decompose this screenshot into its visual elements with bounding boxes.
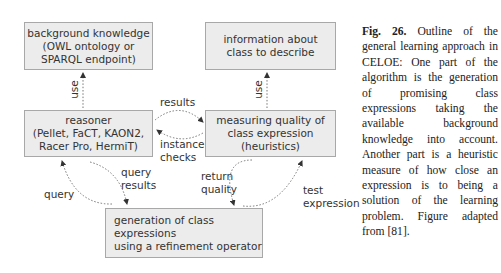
caption-text: Outline of the general learning approach…	[362, 25, 498, 238]
reasoner-box: reasoner (Pellet, FaCT, KAON2, Racer Pro…	[24, 110, 153, 157]
information-box: information about class to describe	[205, 22, 336, 70]
figure-label: Fig. 26.	[362, 25, 406, 38]
learning-approach-diagram: background knowledge (OWL ontology or SP…	[0, 0, 360, 273]
use-left-label: use	[68, 80, 81, 99]
results-arrow	[155, 110, 203, 122]
use-right-label: use	[252, 80, 265, 99]
query-results-label: query results	[121, 166, 156, 192]
instance-checks-label: instance checks	[160, 138, 204, 164]
measuring-quality-box: measuring quality of class expression (h…	[205, 110, 336, 157]
query-label: query	[44, 188, 74, 201]
figure-caption: Fig. 26. Outline of the general learning…	[362, 24, 498, 240]
return-quality-label: return quality	[201, 170, 237, 196]
background-knowledge-box: background knowledge (OWL ontology or SP…	[24, 22, 153, 70]
results-label: results	[160, 96, 195, 109]
test-expression-arrow	[243, 161, 302, 206]
test-expression-label: test expression	[303, 184, 360, 210]
generation-box: generation of class expressions using a …	[105, 208, 263, 258]
